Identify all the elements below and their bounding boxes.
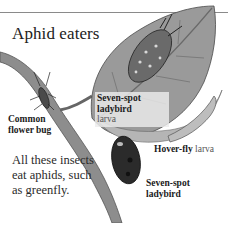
label-hoverfly-larva: Hover-fly larva bbox=[154, 144, 214, 155]
page-title: Aphid eaters bbox=[12, 24, 100, 44]
label-ladybird: Seven-spot ladybird bbox=[146, 178, 208, 199]
label-ladybird-larva-name: Seven-spot ladybird bbox=[97, 93, 167, 114]
label-ladybird-name: Seven-spot ladybird bbox=[146, 178, 208, 199]
label-ladybird-larva: Seven-spot ladybird larva bbox=[95, 92, 169, 127]
caption: All these insects eat aphids, such as gr… bbox=[12, 153, 98, 198]
label-flower-bug-name: Common flower bug bbox=[8, 114, 68, 135]
label-hoverfly-stage: larva bbox=[195, 144, 214, 154]
label-hoverfly-name: Hover-fly bbox=[154, 144, 193, 154]
label-ladybird-larva-stage: larva bbox=[97, 114, 116, 124]
label-flower-bug: Common flower bug bbox=[8, 114, 68, 135]
